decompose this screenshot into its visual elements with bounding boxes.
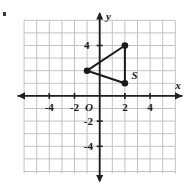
y-tick-label-neg4: -4: [84, 140, 94, 152]
axes: [18, 12, 183, 183]
y-axis-arrow-down: [96, 175, 103, 183]
x-axis-label: x: [174, 79, 181, 91]
x-axis-arrow-right: [175, 92, 183, 99]
x-tick-label-neg4: -4: [45, 101, 55, 113]
y-axis-label: y: [104, 10, 111, 22]
x-tick-label-4: 4: [147, 101, 153, 113]
problem-marker: [3, 12, 6, 16]
coordinate-grid-svg: -4 -2 2 4 4 -2 -4 O y x S: [0, 0, 195, 196]
origin-label: O: [85, 101, 93, 113]
x-tick-label-2: 2: [122, 101, 128, 113]
coordinate-plane-figure: -4 -2 2 4 4 -2 -4 O y x S: [0, 0, 195, 196]
vertex-label-s: S: [132, 69, 138, 81]
vertex-point: [122, 42, 129, 49]
x-tick-label-neg2: -2: [70, 101, 80, 113]
y-tick-label-neg2: -2: [84, 115, 94, 127]
vertex-point: [84, 67, 91, 74]
triangle-shape: [87, 46, 125, 84]
y-axis-arrow-up: [96, 12, 103, 20]
x-axis-arrow-left: [18, 92, 26, 99]
y-tick-label-4: 4: [84, 39, 90, 51]
vertex-point: [122, 80, 129, 87]
